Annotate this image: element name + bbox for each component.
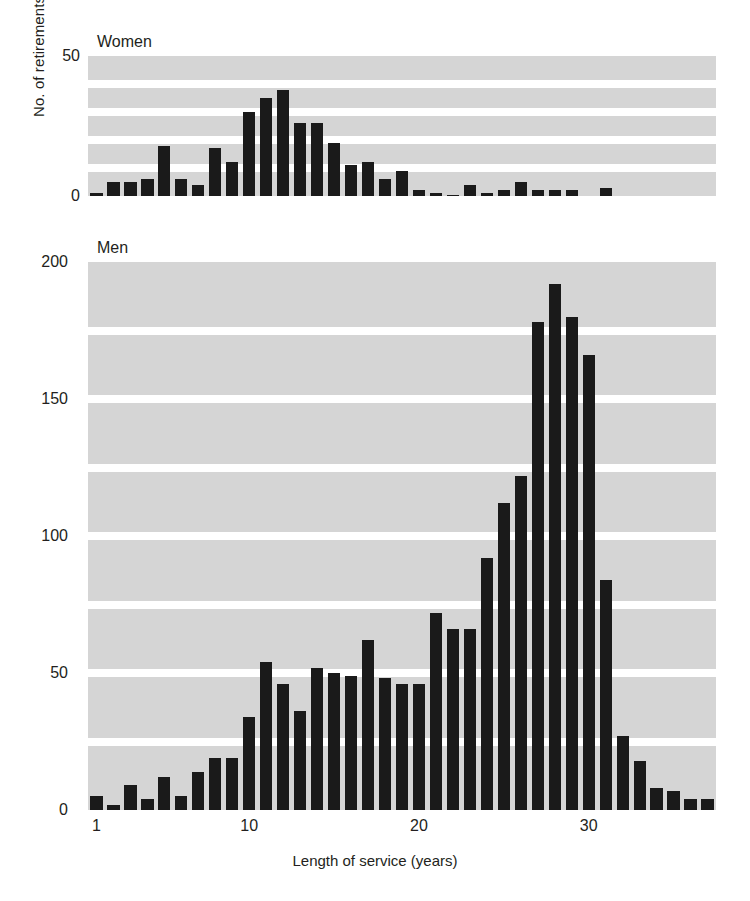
bar xyxy=(617,736,629,810)
bar xyxy=(124,785,136,810)
bar xyxy=(464,185,476,196)
bar xyxy=(566,190,578,196)
plot-area-men xyxy=(88,262,716,810)
bar xyxy=(447,195,459,196)
y-tick-women-50: 50 xyxy=(62,48,80,64)
bar xyxy=(379,678,391,810)
bar xyxy=(311,668,323,810)
bar xyxy=(481,193,493,196)
bar xyxy=(277,90,289,196)
y-axis-label: No. of retirements xyxy=(30,0,47,157)
bar xyxy=(430,613,442,810)
y-tick-men-200: 200 xyxy=(41,254,68,270)
bar xyxy=(124,182,136,196)
bar xyxy=(243,112,255,196)
bar xyxy=(175,796,187,810)
bar xyxy=(583,355,595,810)
y-tick-men-100: 100 xyxy=(41,528,68,544)
bar xyxy=(701,799,713,810)
bar xyxy=(158,777,170,810)
bar xyxy=(498,190,510,196)
bar xyxy=(515,182,527,196)
bar xyxy=(328,673,340,810)
bar xyxy=(515,476,527,810)
bar xyxy=(498,503,510,810)
bar xyxy=(311,123,323,196)
x-axis-label: Length of service (years) xyxy=(0,852,750,869)
bar xyxy=(209,758,221,810)
x-tick-1: 1 xyxy=(76,818,116,834)
bar xyxy=(90,796,102,810)
y-tick-women-0: 0 xyxy=(71,188,80,204)
bar xyxy=(90,193,102,196)
bar xyxy=(260,98,272,196)
bar xyxy=(634,761,646,810)
panel-title-women: Women xyxy=(97,34,152,50)
figure-retirements-by-length-of-service: No. of retirements Women 50 0 Men 200 15… xyxy=(0,0,750,901)
bar xyxy=(684,799,696,810)
bar xyxy=(294,123,306,196)
bar xyxy=(464,629,476,810)
bar xyxy=(413,684,425,810)
x-tick-20: 20 xyxy=(399,818,439,834)
bar xyxy=(107,182,119,196)
bar xyxy=(345,676,357,810)
bar xyxy=(481,558,493,810)
bar xyxy=(192,185,204,196)
bar xyxy=(447,629,459,810)
bar xyxy=(413,190,425,196)
bar xyxy=(226,758,238,810)
x-tick-30: 30 xyxy=(569,818,609,834)
bar xyxy=(600,188,612,196)
y-tick-men-0: 0 xyxy=(59,802,68,818)
bar xyxy=(141,179,153,196)
panel-men xyxy=(88,262,716,810)
bar xyxy=(277,684,289,810)
bar-series-men xyxy=(88,262,716,810)
bar xyxy=(362,640,374,810)
y-tick-men-150: 150 xyxy=(41,391,68,407)
bar xyxy=(260,662,272,810)
bar xyxy=(549,190,561,196)
bar xyxy=(141,799,153,810)
plot-area-women xyxy=(88,56,716,196)
bar xyxy=(209,148,221,196)
bar xyxy=(158,146,170,196)
bar xyxy=(379,179,391,196)
bar xyxy=(362,162,374,196)
bar xyxy=(566,317,578,810)
bar xyxy=(226,162,238,196)
bar xyxy=(650,788,662,810)
bar-series-women xyxy=(88,56,716,196)
bar xyxy=(532,322,544,810)
bar xyxy=(192,772,204,810)
bar xyxy=(667,791,679,810)
x-tick-10: 10 xyxy=(229,818,269,834)
panel-women xyxy=(88,56,716,196)
bar xyxy=(243,717,255,810)
y-tick-men-50: 50 xyxy=(50,665,68,681)
bar xyxy=(532,190,544,196)
bar xyxy=(430,193,442,196)
bar xyxy=(294,711,306,810)
bar xyxy=(328,143,340,196)
bar xyxy=(396,684,408,810)
bar xyxy=(396,171,408,196)
bar xyxy=(549,284,561,810)
panel-title-men: Men xyxy=(97,240,128,256)
bar xyxy=(175,179,187,196)
bar xyxy=(600,580,612,810)
bar xyxy=(107,805,119,810)
bar xyxy=(345,165,357,196)
